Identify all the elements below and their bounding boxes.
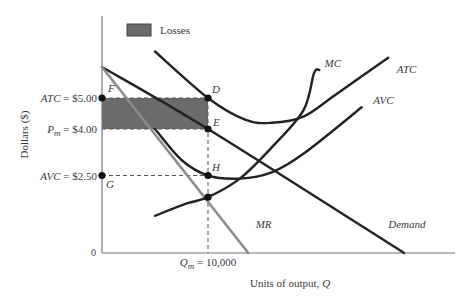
point-e xyxy=(204,125,211,132)
profit-loss-chart: Dollars ($) Units of output, Q 0 FDEGHAT… xyxy=(0,0,468,304)
point-d xyxy=(204,94,211,101)
point-label-h: H xyxy=(211,161,221,173)
point-label-g: G xyxy=(106,178,114,190)
curve-label-avc: AVC xyxy=(372,94,394,106)
y-tick-label: Pm = $4.00 xyxy=(46,123,97,138)
legend-swatch-losses xyxy=(127,24,151,36)
x-axis-label: Units of output, Q xyxy=(250,277,330,289)
y-tick-label: AVC = $2.50 xyxy=(39,170,97,182)
curve-mr xyxy=(102,67,248,253)
point-f xyxy=(98,94,105,101)
point-mc-intersection xyxy=(204,194,211,201)
losses-region xyxy=(102,98,208,129)
curve-demand xyxy=(102,67,404,253)
curve-label-mr: MR xyxy=(255,218,272,230)
point-label-f: F xyxy=(107,82,115,94)
curve-label-mc: MC xyxy=(324,57,342,69)
y-tick-label: ATC = $5.00 xyxy=(40,92,98,104)
curve-mc xyxy=(155,69,319,215)
x-tick-label: Qm = 10,000 xyxy=(180,256,237,271)
point-label-e: E xyxy=(212,116,220,128)
curve-label-demand: Demand xyxy=(387,218,426,230)
point-g xyxy=(98,172,105,179)
legend-label-losses: Losses xyxy=(160,24,190,36)
legend: Losses xyxy=(127,24,190,36)
point-h xyxy=(204,172,211,179)
point-label-d: D xyxy=(211,83,220,95)
origin-label: 0 xyxy=(91,247,96,258)
curve-label-atc: ATC xyxy=(396,63,417,75)
y-axis-label: Dollars ($) xyxy=(18,110,31,158)
x-axis-label-variable: Q xyxy=(322,277,330,289)
